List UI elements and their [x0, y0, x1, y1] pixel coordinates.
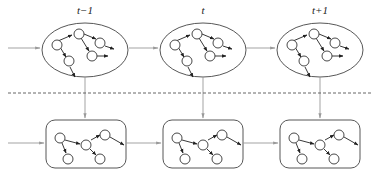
time-label-t-plus-1: t+1 — [312, 4, 328, 16]
temporal-graph-diagram: t−1 t t+1 — [0, 0, 376, 178]
ellipse-graph-t — [160, 23, 246, 77]
box-graph-1 — [46, 120, 126, 168]
time-label-t: t — [201, 4, 205, 16]
box-graph-3 — [280, 120, 360, 168]
ellipse-graph-t-plus-1 — [277, 23, 363, 77]
ellipse-graph-t-minus-1 — [42, 23, 128, 77]
time-label-t-minus-1: t−1 — [77, 4, 93, 16]
box-graph-2 — [163, 120, 243, 168]
